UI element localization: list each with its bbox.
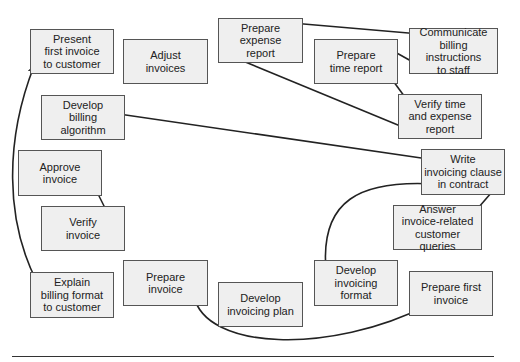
task-explain-billing-format[interactable]: Explain billing format to customer: [30, 272, 114, 318]
task-label: Develop billing algorithm: [60, 99, 105, 137]
task-approve-invoice[interactable]: Approve invoice: [18, 150, 102, 196]
task-label: Prepare invoice: [146, 271, 185, 296]
task-label: Present first invoice to customer: [43, 33, 100, 71]
task-answer-customer-queries[interactable]: Answer invoice-related customer queries: [393, 205, 482, 250]
arrow-expense-communicate: [292, 23, 420, 34]
task-prepare-invoice[interactable]: Prepare invoice: [123, 260, 208, 306]
task-label: Develop invoicing plan: [227, 292, 294, 317]
task-communicate-billing-instructions[interactable]: Communicate billing instructions to staf…: [409, 28, 498, 74]
task-label: Explain billing format to customer: [41, 276, 103, 314]
task-label: Develop invoicing format: [335, 264, 378, 302]
task-label: Approve invoice: [40, 161, 81, 186]
task-label: Write invoicing clause in contract: [424, 153, 502, 191]
task-prepare-time-report[interactable]: Prepare time report: [314, 39, 398, 84]
task-label: Communicate billing instructions to staf…: [412, 26, 495, 76]
task-present-first-invoice[interactable]: Present first invoice to customer: [30, 29, 114, 74]
task-develop-billing-algorithm[interactable]: Develop billing algorithm: [41, 95, 125, 140]
task-label: Prepare time report: [330, 49, 383, 74]
task-label: Answer invoice-related customer queries: [396, 203, 479, 253]
task-label: Verify invoice: [66, 216, 100, 241]
task-label: Prepare expense report: [240, 22, 282, 60]
task-develop-invoicing-format[interactable]: Develop invoicing format: [314, 260, 398, 306]
bottom-rule: [12, 356, 494, 357]
task-label: Prepare first invoice: [421, 281, 481, 306]
task-adjust-invoices[interactable]: Adjust invoices: [123, 39, 208, 84]
task-verify-invoice[interactable]: Verify invoice: [41, 206, 125, 251]
task-prepare-expense-report[interactable]: Prepare expense report: [218, 18, 303, 63]
task-verify-time-expense-report[interactable]: Verify time and expense report: [398, 94, 482, 139]
task-write-invoicing-clause[interactable]: Write invoicing clause in contract: [421, 149, 505, 195]
task-label: Adjust invoices: [146, 49, 186, 74]
task-label: Verify time and expense report: [409, 98, 472, 136]
task-prepare-first-invoice[interactable]: Prepare first invoice: [409, 271, 493, 316]
task-develop-invoicing-plan[interactable]: Develop invoicing plan: [218, 282, 303, 327]
